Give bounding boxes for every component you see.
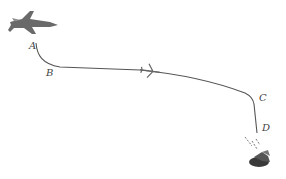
flight-path	[36, 43, 257, 133]
small-plane-icon	[139, 63, 161, 80]
point-label-b: B	[46, 67, 53, 78]
point-label-c: C	[259, 92, 267, 103]
diagram-svg	[0, 0, 286, 179]
impact-crater-icon	[249, 150, 270, 167]
point-label-d: D	[262, 122, 270, 133]
motion-lines	[245, 137, 260, 149]
fighter-jet-icon	[8, 11, 58, 34]
flight-path-diagram: A B C D	[0, 0, 286, 179]
point-label-a: A	[29, 40, 36, 51]
